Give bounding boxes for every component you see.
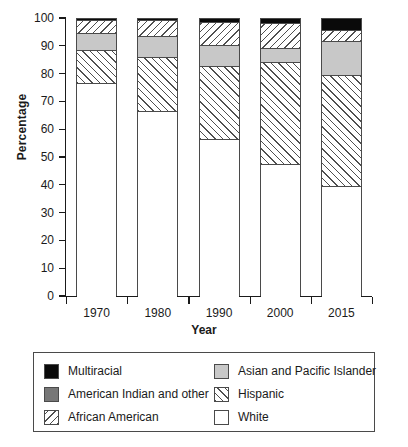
y-tick-30 [59,212,66,213]
multiracial-swatch [44,364,59,379]
y-tick-label-90: 90 [14,40,54,52]
legend-column-right: Asian and Pacific IslanderHispanicWhite [214,361,376,430]
asian-pacific-islander-swatch [214,364,229,379]
x-tick-label-2015: 2015 [311,307,371,319]
y-tick-40 [59,184,66,185]
segment-1990-african-american [200,22,239,46]
bar-2000[interactable] [260,18,301,296]
chart-legend: MultiracialAmerican Indian and otherAfri… [33,352,375,432]
y-tick-80 [59,73,66,74]
plot-area [66,18,372,296]
african-american-swatch [44,410,59,425]
segment-2015-multiracial [322,19,361,30]
segment-1990-hispanic [200,66,239,138]
y-tick-label-60: 60 [14,123,54,135]
y-tick-label-80: 80 [14,68,54,80]
legend-item-asian-and-pacific-islander[interactable]: Asian and Pacific Islander [214,361,376,382]
legend-label: Multiracial [68,365,122,378]
segment-1990-asian-and-pacific-islander [200,45,239,66]
legend-label: Asian and Pacific Islander [238,365,376,378]
segment-2000-asian-and-pacific-islander [261,48,300,62]
y-tick-label-10: 10 [14,262,54,274]
y-tick-50 [59,156,66,157]
x-axis-label: Year [0,323,408,337]
segment-1970-white [77,83,116,297]
y-tick-label-20: 20 [14,234,54,246]
y-tick-0 [59,295,66,296]
y-tick-label-100: 100 [14,12,54,24]
x-tick-boundary-4 [311,297,312,304]
y-tick-70 [59,101,66,102]
x-tick-label-2000: 2000 [250,307,310,319]
segment-2015-white [322,186,361,297]
y-tick-label-50: 50 [14,151,54,163]
x-tick-boundary-0 [66,297,67,304]
segment-1970-african-american [77,20,116,33]
legend-column-left: MultiracialAmerican Indian and otherAfri… [44,361,209,430]
legend-label: African American [68,411,159,424]
x-tick-boundary-1 [127,297,128,304]
segment-2000-white [261,164,300,297]
segment-1980-white [138,111,177,297]
legend-label: Hispanic [238,388,284,401]
y-tick-10 [59,268,66,269]
segment-2015-african-american [322,30,361,41]
segment-1980-hispanic [138,57,177,111]
y-tick-label-40: 40 [14,179,54,191]
hispanic-swatch [214,387,229,402]
y-tick-20 [59,240,66,241]
x-tick-boundary-2 [188,297,189,304]
x-tick-boundary-3 [250,297,251,304]
x-tick-label-1990: 1990 [189,307,249,319]
legend-label: American Indian and other [68,388,209,401]
legend-label: White [238,411,269,424]
y-tick-90 [59,45,66,46]
bar-2015[interactable] [321,18,362,296]
legend-item-american-indian-and-other[interactable]: American Indian and other [44,384,209,405]
legend-item-white[interactable]: White [214,407,376,428]
y-tick-60 [59,129,66,130]
segment-1970-asian-and-pacific-islander [77,33,116,50]
x-tick-label-1970: 1970 [67,307,127,319]
segment-1990-white [200,139,239,297]
bar-1990[interactable] [199,18,240,296]
chart-container: Percentage 0102030405060708090100 197019… [0,0,408,340]
segment-2015-hispanic [322,75,361,186]
white-swatch [214,410,229,425]
segment-1980-asian-and-pacific-islander [138,36,177,57]
legend-item-hispanic[interactable]: Hispanic [214,384,376,405]
segment-2000-hispanic [261,62,300,163]
x-tick-boundary-5 [372,297,373,304]
segment-1970-hispanic [77,50,116,83]
x-tick-label-1980: 1980 [128,307,188,319]
y-tick-label-30: 30 [14,207,54,219]
y-tick-label-0: 0 [14,290,54,302]
legend-item-african-american[interactable]: African American [44,407,209,428]
segment-2015-asian-and-pacific-islander [322,41,361,74]
segment-1980-african-american [138,20,177,35]
bar-1980[interactable] [137,18,178,296]
legend-item-multiracial[interactable]: Multiracial [44,361,209,382]
american-indian-swatch [44,387,59,402]
y-tick-label-70: 70 [14,95,54,107]
y-tick-100 [59,17,66,18]
segment-2000-african-american [261,23,300,48]
bar-1970[interactable] [76,18,117,296]
